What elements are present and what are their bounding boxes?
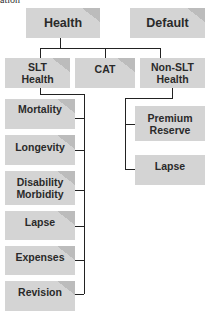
node-expenses: Expenses	[5, 246, 75, 275]
corner-decoration	[57, 211, 75, 225]
connector	[125, 124, 135, 125]
node-label: Health	[44, 17, 82, 29]
connector	[125, 98, 126, 169]
node-lapse: Lapse	[5, 211, 75, 240]
connector	[60, 38, 61, 48]
connector	[40, 94, 84, 95]
connector	[75, 118, 84, 119]
node-longevity: Longevity	[5, 135, 75, 165]
node-non-slt-health: Non-SLT Health	[140, 58, 205, 88]
node-label: Premium Reserve	[145, 112, 195, 136]
node-revision: Revision	[5, 281, 75, 311]
connector	[75, 226, 84, 227]
corner-decoration	[82, 8, 100, 22]
node-label: Default	[146, 17, 188, 29]
connector	[40, 48, 161, 49]
node-default: Default	[130, 8, 205, 38]
connector	[105, 48, 106, 58]
node-mortality: Mortality	[5, 99, 75, 129]
node-label: CAT	[95, 63, 116, 75]
node-label: Mortality	[18, 103, 62, 115]
caption-fragment: ation	[0, 0, 20, 5]
node-slt-health: SLT Health	[5, 58, 70, 88]
node-cat: CAT	[75, 58, 135, 88]
corner-decoration	[187, 8, 205, 22]
connector	[125, 169, 135, 170]
node-label: Lapse	[155, 160, 185, 172]
node-label: Lapse	[25, 216, 55, 228]
node-label: Expenses	[15, 251, 64, 263]
connector	[172, 88, 173, 98]
connector	[125, 98, 173, 99]
connector	[40, 48, 41, 58]
connector	[84, 94, 85, 294]
node-label: Longevity	[15, 141, 65, 153]
node-lapse-non-slt: Lapse	[135, 155, 205, 185]
connector	[75, 150, 84, 151]
node-health: Health	[26, 8, 100, 38]
connector	[160, 48, 161, 58]
node-label: Disability Morbidity	[15, 176, 65, 200]
node-disability-morbidity: Disability Morbidity	[5, 171, 75, 205]
connector	[75, 260, 84, 261]
connector	[75, 190, 84, 191]
node-label: Non-SLT Health	[145, 61, 200, 85]
node-label: SLT Health	[18, 61, 58, 85]
connector	[75, 294, 84, 295]
node-label: Revision	[18, 286, 62, 298]
corner-decoration	[117, 58, 135, 72]
node-premium-reserve: Premium Reserve	[135, 106, 205, 141]
